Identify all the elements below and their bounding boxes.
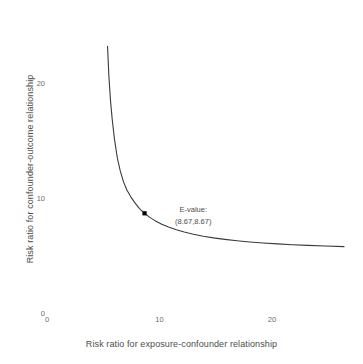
- e-value-point: [142, 211, 146, 215]
- x-axis-tick-label: 20: [257, 315, 287, 324]
- e-value-annotation-value: (8.67,8.67): [153, 217, 233, 226]
- y-axis-title: Risk ratio for confounder-outcome relati…: [25, 59, 35, 279]
- plot-background: [0, 0, 363, 364]
- x-axis-title: Risk ratio for exposure-confounder relat…: [0, 339, 363, 349]
- x-axis-tick-label: 10: [145, 315, 175, 324]
- chart-figure: 0 10 20 0 10 20 Risk ratio for exposure-…: [0, 0, 363, 364]
- y-axis-tick-label: 0: [15, 309, 45, 318]
- e-value-annotation-title: E-value:: [153, 205, 233, 214]
- plot-canvas: [0, 0, 363, 364]
- data-point-group: [142, 211, 146, 215]
